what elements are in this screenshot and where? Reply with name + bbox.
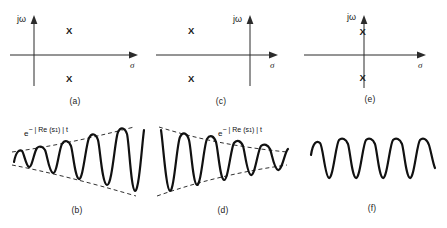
panel-e-svg: jω σ X X xyxy=(300,8,440,90)
pole-marker-lower: X xyxy=(66,73,73,84)
pole-marker-lower: X xyxy=(360,72,367,83)
axis-label-sigma: σ xyxy=(418,60,423,70)
envelope-equation-d: e− | Re (s1) | t xyxy=(218,126,262,138)
envelope-lower xyxy=(12,165,136,196)
caption-c: (c) xyxy=(201,96,241,106)
caption-a: (a) xyxy=(55,96,95,106)
caption-e: (e) xyxy=(350,94,390,104)
envelope-equation-b: e− | Re (s1) | t xyxy=(24,126,68,138)
caption-b: (b) xyxy=(57,205,97,215)
envelope-lower xyxy=(157,165,287,196)
real-axis-arrow xyxy=(129,52,138,59)
panel-c-svg: jω σ X X xyxy=(152,8,292,90)
response-waveform xyxy=(161,130,288,191)
envelope-exponent-tail-d: ) | t xyxy=(252,126,262,133)
pole-marker-lower: X xyxy=(188,73,195,84)
imaginary-axis-arrow xyxy=(361,15,368,24)
envelope-exponent-tail-b: ) | t xyxy=(58,126,68,133)
axis-label-jomega: jω xyxy=(232,14,242,24)
envelope-exponent-b: − | Re (s xyxy=(28,126,55,133)
response-waveform xyxy=(311,139,435,178)
axis-label-sigma: σ xyxy=(130,60,135,70)
imaginary-axis-arrow xyxy=(31,15,38,24)
figure-root: jω σ X X (a) jω σ X X (c) jω σ X xyxy=(0,0,447,228)
pole-marker-upper: X xyxy=(360,26,367,37)
panel-f-response xyxy=(305,130,440,202)
axis-label-sigma: σ xyxy=(270,60,275,70)
caption-d: (d) xyxy=(203,205,243,215)
axis-label-jomega: jω xyxy=(346,12,356,22)
envelope-exponent-d: − | Re (s xyxy=(222,126,249,133)
caption-f: (f) xyxy=(352,203,392,213)
panel-c-s-plane: jω σ X X xyxy=(152,8,292,90)
panel-e-s-plane: jω σ X X xyxy=(300,8,440,90)
imaginary-axis-arrow xyxy=(247,15,254,24)
panel-a-svg: jω σ X X xyxy=(8,8,148,90)
panel-f-svg xyxy=(305,130,440,202)
axis-label-jomega: jω xyxy=(16,14,26,24)
real-axis-arrow xyxy=(269,52,278,59)
response-waveform xyxy=(14,128,144,191)
panel-a-s-plane: jω σ X X xyxy=(8,8,148,90)
pole-marker-upper: X xyxy=(66,25,73,36)
real-axis-arrow xyxy=(417,52,426,59)
pole-marker-upper: X xyxy=(188,25,195,36)
